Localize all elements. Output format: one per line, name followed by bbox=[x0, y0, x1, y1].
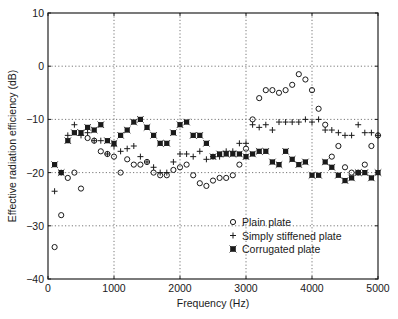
data-point bbox=[349, 132, 355, 138]
data-point bbox=[322, 127, 328, 133]
data-point bbox=[329, 164, 336, 171]
data-point bbox=[243, 153, 250, 160]
data-point bbox=[177, 165, 182, 170]
x-tick-label: 3000 bbox=[234, 282, 258, 294]
data-point bbox=[269, 127, 275, 133]
legend: Plain plate Simply stiffened plate Corru… bbox=[230, 216, 342, 255]
data-point bbox=[98, 149, 103, 154]
legend-label-corrugated-plate: Corrugated plate bbox=[242, 243, 320, 255]
data-point bbox=[362, 162, 367, 167]
data-point bbox=[230, 151, 237, 158]
data-point bbox=[65, 132, 71, 138]
data-point bbox=[164, 140, 171, 147]
data-point bbox=[296, 119, 302, 125]
data-point bbox=[104, 137, 111, 144]
data-point bbox=[283, 88, 288, 93]
data-point bbox=[118, 148, 124, 154]
data-point bbox=[303, 77, 308, 82]
y-tick-label: −10 bbox=[26, 113, 44, 125]
data-point bbox=[98, 121, 105, 128]
y-tick-label: 10 bbox=[32, 7, 44, 19]
data-point bbox=[51, 161, 58, 168]
data-point bbox=[138, 162, 143, 167]
data-point bbox=[183, 119, 190, 126]
data-point bbox=[309, 172, 316, 179]
axis-ticks: 010002000300040005000100−10−20−30−40 bbox=[26, 7, 390, 294]
data-point bbox=[203, 156, 209, 162]
series-simply-stiffened-plate bbox=[52, 116, 381, 194]
x-tick-label: 1000 bbox=[102, 282, 126, 294]
data-point bbox=[52, 244, 57, 249]
data-point bbox=[348, 175, 355, 182]
data-point bbox=[276, 119, 282, 125]
y-tick-label: −30 bbox=[26, 220, 44, 232]
data-point bbox=[78, 129, 85, 136]
x-tick-label: 0 bbox=[45, 282, 51, 294]
data-point bbox=[65, 137, 72, 144]
data-point bbox=[59, 213, 64, 218]
data-point bbox=[256, 148, 263, 155]
data-point bbox=[335, 172, 342, 179]
data-point bbox=[362, 130, 368, 136]
data-point bbox=[91, 127, 98, 134]
data-point bbox=[184, 151, 190, 157]
plus-marker-icon bbox=[230, 233, 236, 239]
circle-marker-icon bbox=[230, 219, 235, 224]
data-point bbox=[296, 72, 301, 77]
data-point bbox=[98, 138, 104, 144]
x-tick-label: 2000 bbox=[168, 282, 192, 294]
data-point bbox=[375, 169, 382, 176]
data-point bbox=[52, 188, 58, 194]
data-point bbox=[197, 132, 204, 139]
data-point bbox=[257, 96, 262, 101]
data-point bbox=[197, 181, 202, 186]
data-point bbox=[355, 122, 361, 128]
data-point bbox=[190, 154, 196, 160]
data-point bbox=[151, 164, 157, 170]
data-point bbox=[137, 116, 144, 123]
data-point bbox=[290, 82, 295, 87]
data-point bbox=[157, 140, 164, 147]
data-point bbox=[336, 143, 341, 148]
data-point bbox=[249, 151, 256, 158]
data-point bbox=[243, 140, 249, 146]
x-tick-label: 4000 bbox=[300, 282, 324, 294]
data-point bbox=[203, 140, 210, 147]
data-point bbox=[117, 132, 124, 139]
data-point bbox=[131, 143, 137, 149]
data-point bbox=[276, 161, 283, 168]
data-point bbox=[124, 127, 131, 134]
data-point bbox=[342, 132, 348, 138]
data-point bbox=[329, 154, 334, 159]
data-point bbox=[289, 119, 295, 125]
data-point bbox=[150, 132, 157, 139]
data-point bbox=[85, 130, 91, 136]
data-point bbox=[204, 183, 209, 188]
data-point bbox=[184, 162, 189, 167]
data-point bbox=[210, 153, 217, 160]
data-point bbox=[170, 129, 177, 136]
legend-label-plain-plate: Plain plate bbox=[242, 216, 291, 228]
data-point bbox=[118, 170, 123, 175]
data-point bbox=[276, 90, 281, 95]
y-axis-label: Effective radiation efficiency (dB) bbox=[6, 70, 18, 223]
x-tick-label: 5000 bbox=[366, 282, 390, 294]
data-point bbox=[250, 122, 256, 128]
y-tick-label: −20 bbox=[26, 167, 44, 179]
data-point bbox=[269, 159, 276, 166]
series-plain-plate bbox=[52, 72, 381, 250]
data-point bbox=[137, 154, 143, 160]
data-point bbox=[243, 146, 248, 151]
radiation-efficiency-chart: 010002000300040005000100−10−20−30−40 Pla… bbox=[0, 0, 398, 319]
data-point bbox=[170, 159, 176, 165]
data-point bbox=[190, 132, 197, 139]
data-point bbox=[322, 159, 329, 166]
data-point bbox=[368, 130, 374, 136]
y-tick-label: −40 bbox=[26, 273, 44, 285]
data-point bbox=[355, 169, 362, 176]
legend-item-corrugated-plate: Corrugated plate bbox=[230, 243, 321, 255]
data-point bbox=[369, 143, 374, 148]
data-point bbox=[111, 140, 118, 147]
data-point bbox=[263, 122, 269, 128]
data-point bbox=[309, 119, 315, 125]
